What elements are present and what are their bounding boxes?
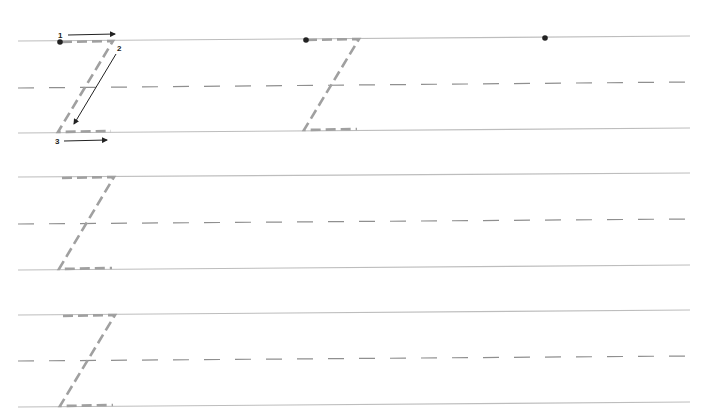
trace-letter-z	[60, 315, 115, 406]
writing-row-3	[18, 310, 690, 407]
stroke-number-3: 3	[55, 137, 60, 146]
base-line	[18, 128, 690, 133]
mid-dashed-line	[18, 219, 690, 224]
start-dot	[57, 39, 63, 45]
mid-dashed-line	[18, 356, 690, 361]
start-dot-free	[542, 35, 548, 41]
stroke-number-2: 2	[117, 44, 122, 53]
trace-letter-z-guided: 1 2 3	[55, 31, 122, 146]
start-dot	[303, 37, 309, 43]
base-line	[18, 265, 690, 270]
writing-row-2	[18, 173, 690, 270]
trace-letter-z	[303, 37, 359, 130]
top-line	[18, 173, 690, 177]
base-line	[18, 402, 690, 407]
top-line	[18, 310, 690, 315]
handwriting-worksheet: 1 2 3	[0, 0, 702, 418]
stroke-arrow-2	[74, 54, 116, 124]
writing-row-1: 1 2 3	[18, 31, 690, 146]
trace-letter-z	[59, 177, 114, 269]
stroke-arrow-1	[68, 34, 115, 35]
mid-dashed-line	[18, 82, 690, 88]
stroke-arrow-3	[64, 140, 107, 141]
stroke-number-1: 1	[58, 31, 63, 40]
